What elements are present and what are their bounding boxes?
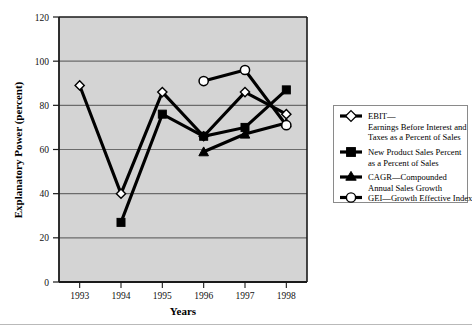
explanatory-power-line-chart: 120 100 80 60 40 20 0 Explanatory Power … bbox=[0, 0, 472, 335]
marker-filled-square bbox=[117, 218, 125, 226]
marker-filled-square bbox=[200, 132, 208, 140]
legend-label-ebit-line1: EBIT— bbox=[368, 111, 396, 121]
filled-square-icon bbox=[347, 148, 356, 157]
plot-area bbox=[59, 17, 307, 282]
y-axis: 120 100 80 60 40 20 0 Explanatory Power … bbox=[12, 13, 59, 288]
legend: EBIT— Earnings Before Interest and Taxes… bbox=[334, 106, 472, 203]
y-tick-label-120: 120 bbox=[35, 13, 50, 23]
y-axis-title: Explanatory Power (percent) bbox=[12, 81, 25, 218]
marker-open-circle bbox=[282, 121, 291, 130]
y-tick-label-0: 0 bbox=[44, 278, 49, 288]
marker-open-circle bbox=[199, 76, 208, 85]
legend-label-nps-line1: New Product Sales Percent bbox=[368, 147, 462, 157]
y-tick-label-80: 80 bbox=[40, 101, 50, 111]
x-tick-label-1998: 1998 bbox=[277, 291, 296, 301]
legend-label-ebit-line3: Taxes as a Percent of Sales bbox=[368, 132, 461, 142]
legend-label-cagr-line2: Annual Sales Growth bbox=[368, 183, 443, 193]
legend-label-cagr-line1: CAGR—Compounded bbox=[368, 172, 447, 182]
legend-label-gei-line1: GEI—Growth Effective Index bbox=[368, 193, 472, 203]
y-tick-label-60: 60 bbox=[40, 145, 50, 155]
y-tick-label-40: 40 bbox=[40, 189, 50, 199]
marker-open-circle bbox=[240, 65, 249, 74]
legend-label-nps-line2: as a Percent of Sales bbox=[368, 158, 439, 168]
legend-label-ebit-line2: Earnings Before Interest and bbox=[368, 122, 467, 132]
y-tick-label-20: 20 bbox=[40, 233, 50, 243]
marker-filled-square bbox=[282, 86, 290, 94]
y-tick-label-100: 100 bbox=[35, 57, 50, 67]
x-tick-label-1996: 1996 bbox=[194, 291, 213, 301]
x-axis-title: Years bbox=[170, 305, 197, 317]
page-bottom-rule bbox=[0, 324, 472, 325]
x-tick-label-1994: 1994 bbox=[112, 291, 131, 301]
x-tick-label-1995: 1995 bbox=[153, 291, 172, 301]
x-tick-label-1993: 1993 bbox=[70, 291, 89, 301]
open-circle-icon bbox=[346, 193, 355, 202]
chart-figure: 120 100 80 60 40 20 0 Explanatory Power … bbox=[0, 0, 472, 335]
x-tick-label-1997: 1997 bbox=[236, 291, 255, 301]
x-axis: 1993 1994 1995 1996 1997 1998 Years bbox=[70, 282, 296, 317]
marker-filled-square bbox=[158, 110, 166, 118]
